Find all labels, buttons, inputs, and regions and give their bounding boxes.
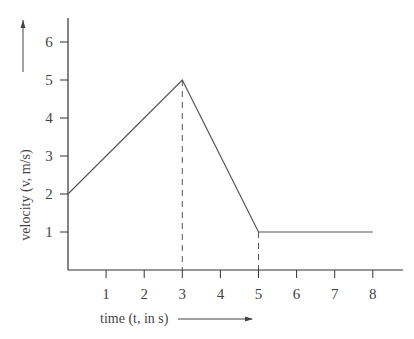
x-tick-label: 8 bbox=[369, 286, 377, 302]
x-tick-label: 2 bbox=[140, 286, 148, 302]
ticks: 12345678123456 bbox=[45, 34, 376, 302]
y-tick-label: 5 bbox=[45, 72, 53, 88]
x-tick-label: 7 bbox=[331, 286, 339, 302]
x-tick-label: 6 bbox=[293, 286, 301, 302]
data-series bbox=[68, 80, 373, 232]
y-tick-label: 1 bbox=[45, 224, 53, 240]
y-arrow-icon bbox=[21, 20, 26, 28]
velocity-time-chart: 12345678123456 velocity (v, m/s) time (t… bbox=[0, 0, 414, 339]
y-tick-label: 3 bbox=[45, 148, 53, 164]
x-tick-label: 5 bbox=[255, 286, 263, 302]
direction-arrows bbox=[21, 20, 254, 322]
x-arrow-icon bbox=[245, 317, 253, 322]
x-tick-label: 1 bbox=[102, 286, 110, 302]
dashed-guides bbox=[182, 80, 258, 270]
y-tick-label: 6 bbox=[45, 34, 53, 50]
x-axis-label: time (t, in s) bbox=[100, 311, 169, 327]
y-axis-label: velocity (v, m/s) bbox=[18, 149, 34, 241]
y-tick-label: 2 bbox=[45, 186, 53, 202]
y-tick-label: 4 bbox=[45, 110, 53, 126]
velocity-line bbox=[68, 80, 373, 232]
x-tick-label: 4 bbox=[217, 286, 225, 302]
x-tick-label: 3 bbox=[179, 286, 187, 302]
